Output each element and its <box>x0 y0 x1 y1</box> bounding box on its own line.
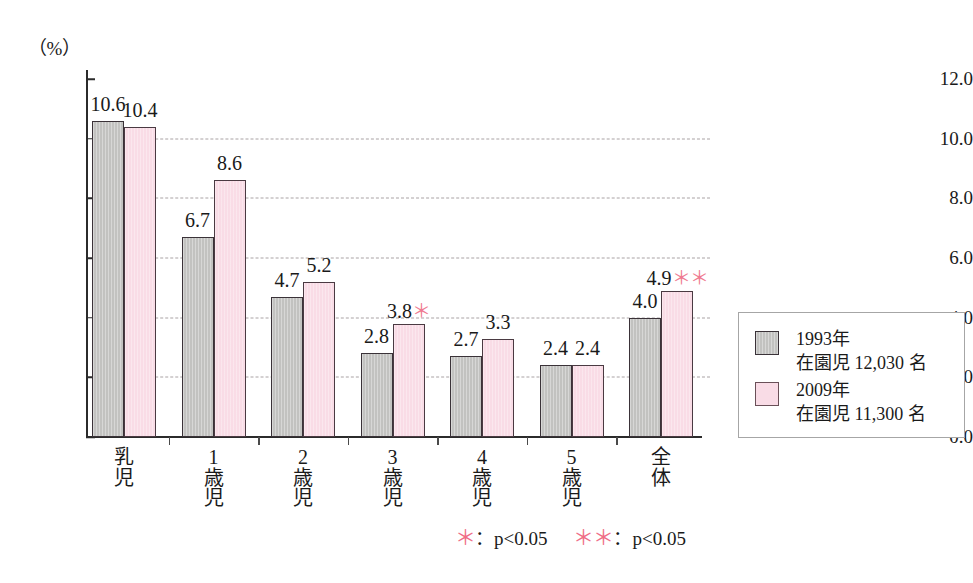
category-label-number: 2 <box>283 447 323 468</box>
y-tick-label: 12.0 <box>913 68 973 90</box>
bar-value-label: 3.3 <box>486 311 511 334</box>
category-label-text: 歳児 <box>373 468 413 509</box>
category-label-char: 歳 <box>373 468 413 489</box>
bar <box>361 353 393 437</box>
category-label-text: 歳児 <box>462 468 502 509</box>
category-label: 乳児 <box>104 447 144 488</box>
bar-value-label: 2.4 <box>543 337 568 360</box>
bar <box>303 282 335 437</box>
bar <box>450 356 482 437</box>
category-label-char: 児 <box>194 488 234 509</box>
bar <box>540 365 572 437</box>
bar-value-label: 2.4 <box>575 337 600 360</box>
legend-2009-detail: 在園児 11,300 名 <box>796 402 926 426</box>
bar <box>182 237 214 437</box>
x-tick-mark <box>169 437 171 445</box>
category-label-number: 5 <box>552 447 592 468</box>
category-label-char: 児 <box>462 488 502 509</box>
y-tick-label: 10.0 <box>913 128 973 150</box>
bar <box>214 180 246 437</box>
category-label: 1歳児 <box>194 447 234 509</box>
category-label-char: 児 <box>552 488 592 509</box>
category-label: 4歳児 <box>462 447 502 509</box>
legend-item-2009: 2009年 在園児 11,300 名 <box>755 378 926 427</box>
x-tick-mark <box>437 437 439 445</box>
bar-value-label: 10.6 <box>91 93 126 116</box>
double-asterisk-icon: ＊＊ <box>573 526 613 550</box>
legend-label-1993: 1993年 在園児 12,030 名 <box>796 327 927 376</box>
gridline <box>95 138 710 139</box>
footnote-text-1: ：p<0.05 <box>475 528 547 549</box>
gridline <box>95 198 710 199</box>
y-tick-label: 8.0 <box>913 187 973 209</box>
footnote-text-2: ：p<0.05 <box>613 528 685 549</box>
y-tick-mark <box>86 78 95 80</box>
x-tick-mark <box>616 437 618 445</box>
single-asterisk-icon: ＊ <box>455 526 475 550</box>
bar <box>482 339 514 437</box>
category-label: 5歳児 <box>552 447 592 509</box>
category-label-text: 全体 <box>641 447 681 488</box>
bar-value-label: 6.7 <box>185 209 210 232</box>
x-tick-mark <box>258 437 260 445</box>
bar-value-label: 4.9＊＊ <box>647 263 708 290</box>
bar-chart-figure: （%） 0.02.04.06.08.010.012.0 10.610.46.78… <box>0 0 973 583</box>
category-label: 2歳児 <box>283 447 323 509</box>
category-label-char: 歳 <box>552 468 592 489</box>
bar <box>92 121 124 437</box>
category-label-text: 歳児 <box>283 468 323 509</box>
category-label-char: 乳 <box>104 447 144 468</box>
category-label-char: 全 <box>641 447 681 468</box>
y-axis-line <box>86 70 88 438</box>
bar-value-label: 4.0 <box>633 290 658 313</box>
bar-value-label: 3.8＊ <box>387 296 430 323</box>
category-label-text: 歳児 <box>194 468 234 509</box>
bar-value-label: 4.7 <box>275 269 300 292</box>
legend-2009-year: 2009年 <box>796 378 926 402</box>
legend: 1993年 在園児 12,030 名 2009年 在園児 11,300 名 <box>738 312 965 438</box>
category-label-char: 児 <box>104 468 144 489</box>
legend-1993-detail: 在園児 12,030 名 <box>796 351 927 375</box>
category-label-char: 児 <box>283 488 323 509</box>
category-label-text: 歳児 <box>552 468 592 509</box>
category-label-char: 歳 <box>462 468 502 489</box>
category-label-char: 児 <box>373 488 413 509</box>
category-label-text: 乳児 <box>104 447 144 488</box>
category-label-char: 体 <box>641 468 681 489</box>
legend-swatch-1993 <box>755 331 779 355</box>
bar-value-label: 5.2 <box>307 254 332 277</box>
bar <box>124 127 156 437</box>
bar-value-label: 8.6 <box>217 152 242 175</box>
bar <box>661 291 693 437</box>
category-label-char: 歳 <box>283 468 323 489</box>
x-tick-mark <box>348 437 350 445</box>
legend-item-1993: 1993年 在園児 12,030 名 <box>755 327 927 376</box>
significance-asterisk-icon: ＊＊ <box>672 268 708 289</box>
y-axis-unit-label: （%） <box>28 33 80 60</box>
bar-value-label: 10.4 <box>123 99 158 122</box>
significance-footnote: ＊：p<0.05＊＊：p<0.05 <box>455 521 686 551</box>
legend-label-2009: 2009年 在園児 11,300 名 <box>796 378 926 427</box>
category-label-char: 歳 <box>194 468 234 489</box>
category-label: 3歳児 <box>373 447 413 509</box>
x-tick-mark <box>527 437 529 445</box>
bar <box>572 365 604 437</box>
legend-1993-year: 1993年 <box>796 327 927 351</box>
legend-swatch-2009 <box>755 382 779 406</box>
bar-value-label: 2.8 <box>364 325 389 348</box>
y-tick-label: 6.0 <box>913 247 973 269</box>
bar <box>629 318 661 437</box>
category-label-number: 3 <box>373 447 413 468</box>
category-label-number: 1 <box>194 447 234 468</box>
category-label: 全体 <box>641 447 681 488</box>
category-label-number: 4 <box>462 447 502 468</box>
significance-asterisk-icon: ＊ <box>412 301 430 322</box>
bar <box>393 324 425 437</box>
bar-value-label: 2.7 <box>454 328 479 351</box>
bar <box>271 297 303 437</box>
